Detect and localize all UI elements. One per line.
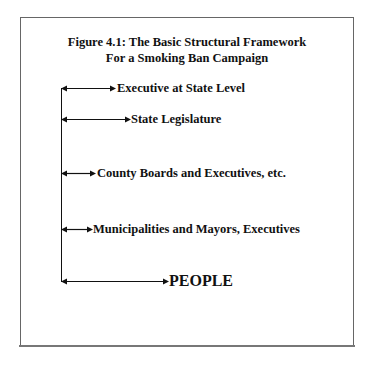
level-label-county: County Boards and Executives, etc. [97,166,286,180]
double-arrow-icon [61,277,169,286]
double-arrow-icon [61,169,96,178]
figure-frame [20,17,354,346]
double-arrow-icon [61,225,93,234]
level-label-state-executive: Executive at State Level [117,81,245,95]
figure-title-line1: Figure 4.1: The Basic Structural Framewo… [20,34,354,50]
bottom-rule [19,345,355,347]
double-arrow-icon [61,115,131,124]
figure-title-line2: For a Smoking Ban Campaign [20,50,354,66]
level-label-municipalities: Municipalities and Mayors, Executives [93,222,300,236]
level-label-state-legislature: State Legislature [131,112,221,126]
double-arrow-icon [61,84,116,93]
level-label-people: PEOPLE [169,272,233,290]
